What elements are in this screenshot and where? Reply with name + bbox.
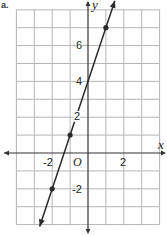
- y-tick-label-6: 6: [76, 40, 82, 51]
- data-point: [103, 25, 108, 30]
- x-tick-label-neg2: -2: [43, 157, 53, 168]
- y-tick-label-4: 4: [76, 76, 82, 87]
- coordinate-plane: [0, 0, 167, 235]
- line-arrow-down-icon: [39, 219, 45, 227]
- data-point: [68, 133, 73, 138]
- y-axis-up-arrow-icon: [86, 1, 91, 6]
- line-arrow-up-icon: [110, 1, 116, 9]
- data-point: [50, 186, 55, 191]
- x-axis-left-arrow-icon: [4, 151, 9, 156]
- y-axis-down-arrow-icon: [86, 229, 91, 234]
- y-axis-label: y: [92, 0, 98, 11]
- x-axis-label: x: [158, 138, 164, 151]
- x-tick-label-2: 2: [120, 157, 126, 168]
- y-tick-label-neg2: -2: [72, 184, 82, 195]
- origin-label: O: [73, 156, 82, 168]
- y-tick-label-2: 2: [74, 111, 80, 122]
